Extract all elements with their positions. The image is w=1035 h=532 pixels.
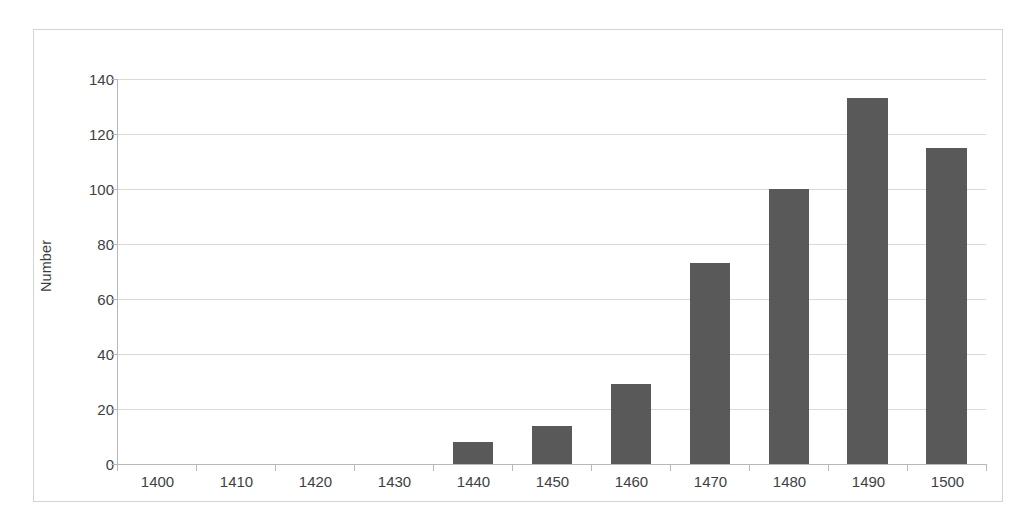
- bar: [926, 148, 966, 464]
- bar-slot: [907, 79, 986, 464]
- x-axis-tick-labels: 1400141014201430144014501460147014801490…: [118, 473, 987, 499]
- x-axis-tick-mark: [670, 464, 671, 471]
- bar-slot: [513, 79, 592, 464]
- bar-slot: [670, 79, 749, 464]
- x-axis-tick-mark: [196, 464, 197, 471]
- x-axis-tick-mark: [591, 464, 592, 471]
- x-axis-tick-label: 1400: [118, 473, 197, 499]
- x-axis-tick-label: 1410: [197, 473, 276, 499]
- bar: [453, 442, 493, 464]
- x-axis-tick-mark: [117, 464, 118, 471]
- plot-area: [117, 79, 986, 464]
- x-axis-tick-label: 1500: [908, 473, 987, 499]
- bar-slot: [276, 79, 355, 464]
- bar-slot: [118, 79, 197, 464]
- x-axis-tick-label: 1460: [592, 473, 671, 499]
- bar-series: [118, 79, 986, 464]
- x-axis-tick-label: 1480: [750, 473, 829, 499]
- x-axis-tick-mark: [986, 464, 987, 471]
- bar-slot: [434, 79, 513, 464]
- x-axis-tick-mark: [828, 464, 829, 471]
- bar-slot: [749, 79, 828, 464]
- bar: [611, 384, 651, 464]
- x-axis-tick-label: 1430: [355, 473, 434, 499]
- y-axis-tick-labels: 020406080100120140: [74, 79, 114, 464]
- x-axis-tick-mark: [354, 464, 355, 471]
- x-axis-tick-mark: [749, 464, 750, 471]
- bar: [690, 263, 730, 464]
- chart-frame: Number 020406080100120140 14001410142014…: [33, 29, 1003, 502]
- bar-slot: [591, 79, 670, 464]
- x-axis-tick-label: 1490: [829, 473, 908, 499]
- bar-slot: [197, 79, 276, 464]
- bar: [769, 189, 809, 464]
- y-axis-title: Number: [38, 239, 54, 291]
- x-axis-tick-marks: [117, 464, 987, 471]
- x-axis-tick-label: 1470: [671, 473, 750, 499]
- x-axis-tick-label: 1440: [434, 473, 513, 499]
- x-axis-tick-mark: [275, 464, 276, 471]
- x-axis-tick-mark: [907, 464, 908, 471]
- x-axis-tick-mark: [433, 464, 434, 471]
- bar: [532, 426, 572, 465]
- bar: [847, 98, 887, 464]
- x-axis-tick-label: 1450: [513, 473, 592, 499]
- bar-slot: [355, 79, 434, 464]
- x-axis-tick-mark: [512, 464, 513, 471]
- x-axis-tick-label: 1420: [276, 473, 355, 499]
- bar-slot: [828, 79, 907, 464]
